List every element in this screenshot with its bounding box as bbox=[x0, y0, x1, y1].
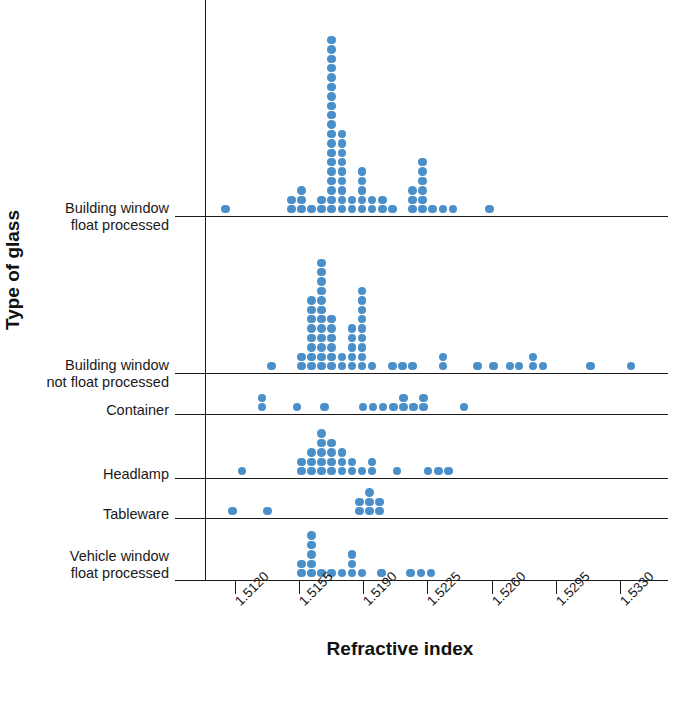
data-dot bbox=[327, 186, 336, 195]
data-dot bbox=[327, 158, 336, 167]
data-dot bbox=[327, 448, 336, 457]
data-dot bbox=[348, 550, 357, 559]
data-dot bbox=[358, 467, 367, 476]
data-dot bbox=[297, 186, 306, 195]
data-dot bbox=[338, 205, 347, 214]
y-axis-category-label: Building window float processed bbox=[0, 200, 169, 234]
data-dot bbox=[307, 550, 316, 559]
data-dot bbox=[317, 353, 326, 362]
data-dot bbox=[348, 324, 357, 333]
data-dot bbox=[368, 458, 377, 467]
data-dot bbox=[418, 177, 427, 186]
data-dot bbox=[355, 507, 364, 516]
data-dot bbox=[408, 186, 417, 195]
category-tick bbox=[175, 373, 205, 374]
data-dot bbox=[327, 334, 336, 343]
data-dot bbox=[317, 448, 326, 457]
data-dot bbox=[317, 439, 326, 448]
data-dot bbox=[393, 467, 402, 476]
data-dot bbox=[327, 315, 336, 324]
data-dot bbox=[307, 334, 316, 343]
data-dot bbox=[408, 196, 417, 205]
data-dot bbox=[327, 177, 336, 186]
data-dot bbox=[348, 467, 357, 476]
data-dot bbox=[327, 36, 336, 45]
data-dot bbox=[358, 334, 367, 343]
data-dot bbox=[439, 205, 448, 214]
data-dot bbox=[388, 362, 397, 371]
data-dot bbox=[358, 167, 367, 176]
category-baseline bbox=[205, 216, 668, 217]
data-dot bbox=[348, 569, 357, 578]
data-dot bbox=[258, 394, 267, 403]
data-dot bbox=[368, 196, 377, 205]
x-axis-tick-label: 1.5120 bbox=[232, 569, 272, 609]
data-dot bbox=[338, 196, 347, 205]
dot-plot-chart: Type of glass Refractive index Building … bbox=[0, 0, 676, 706]
data-dot bbox=[267, 362, 276, 371]
data-dot bbox=[307, 205, 316, 214]
data-dot bbox=[317, 429, 326, 438]
data-dot bbox=[327, 353, 336, 362]
data-dot bbox=[327, 83, 336, 92]
y-axis-category-label: Tableware bbox=[0, 506, 169, 523]
data-dot bbox=[307, 306, 316, 315]
data-dot bbox=[327, 205, 336, 214]
data-dot bbox=[358, 353, 367, 362]
data-dot bbox=[348, 560, 357, 569]
data-dot bbox=[317, 268, 326, 277]
data-dot bbox=[417, 569, 426, 578]
data-dot bbox=[338, 167, 347, 176]
data-dot bbox=[317, 259, 326, 268]
x-axis-tick-label: 1.5330 bbox=[617, 569, 657, 609]
y-axis-line bbox=[205, 0, 206, 581]
data-dot bbox=[586, 362, 595, 371]
data-dot bbox=[287, 205, 296, 214]
data-dot bbox=[338, 569, 347, 578]
data-dot bbox=[473, 362, 482, 371]
data-dot bbox=[317, 343, 326, 352]
data-dot bbox=[307, 296, 316, 305]
data-dot bbox=[297, 560, 306, 569]
data-dot bbox=[368, 467, 377, 476]
data-dot bbox=[317, 205, 326, 214]
data-dot bbox=[418, 205, 427, 214]
data-dot bbox=[358, 324, 367, 333]
data-dot bbox=[368, 205, 377, 214]
data-dot bbox=[327, 120, 336, 129]
data-dot bbox=[388, 205, 397, 214]
y-axis-category-label: Container bbox=[0, 402, 169, 419]
data-dot bbox=[428, 205, 437, 214]
data-dot bbox=[355, 498, 364, 507]
data-dot bbox=[338, 186, 347, 195]
data-dot bbox=[358, 343, 367, 352]
data-dot bbox=[368, 362, 377, 371]
data-dot bbox=[307, 343, 316, 352]
data-dot bbox=[406, 569, 415, 578]
data-dot bbox=[327, 458, 336, 467]
data-dot bbox=[317, 334, 326, 343]
data-dot bbox=[409, 403, 418, 412]
data-dot bbox=[399, 394, 408, 403]
category-baseline bbox=[205, 478, 668, 479]
data-dot bbox=[338, 149, 347, 158]
data-dot bbox=[419, 403, 428, 412]
data-dot bbox=[307, 458, 316, 467]
data-dot bbox=[338, 130, 347, 139]
data-dot bbox=[375, 507, 384, 516]
data-dot bbox=[379, 403, 388, 412]
data-dot bbox=[348, 362, 357, 371]
data-dot bbox=[287, 196, 296, 205]
data-dot bbox=[327, 73, 336, 82]
data-dot bbox=[238, 467, 247, 476]
data-dot bbox=[348, 458, 357, 467]
data-dot bbox=[327, 130, 336, 139]
data-dot bbox=[307, 531, 316, 540]
data-dot bbox=[228, 507, 237, 516]
data-dot bbox=[297, 467, 306, 476]
data-dot bbox=[317, 277, 326, 286]
data-dot bbox=[348, 353, 357, 362]
data-dot bbox=[365, 498, 374, 507]
data-dot bbox=[399, 403, 408, 412]
data-dot bbox=[297, 569, 306, 578]
